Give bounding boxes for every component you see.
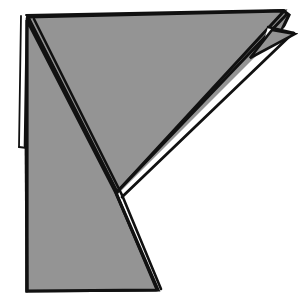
vertex-left-edge-break: [20, 144, 24, 148]
origami-fold-diagram: Origami fold diagram Line drawing of a f…: [0, 0, 298, 301]
vertex-center: [114, 191, 118, 195]
figure-root: Origami fold diagram Line drawing of a f…: [0, 0, 298, 301]
vertex-tip-top-right: [285, 12, 289, 16]
fold-left-edge-lower: [26, 147, 27, 291]
vertex-tip-right-lower: [292, 31, 296, 35]
vertex-apex-top-left: [26, 15, 30, 19]
vertex-bottom-right: [155, 287, 159, 291]
vertex-bottom-left: [25, 288, 29, 292]
